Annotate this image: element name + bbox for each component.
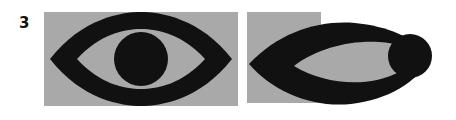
eye-pupil-shape-distorted (388, 34, 432, 78)
eye-symbol-distorted (247, 12, 437, 108)
undistorted-eye-panel (44, 12, 238, 106)
figure-number-label: 3 (19, 14, 29, 32)
eye-symbol (44, 12, 238, 106)
eye-pupil-shape (114, 32, 168, 86)
distorted-eye-panel (247, 12, 437, 108)
figure-root: 3 (0, 0, 456, 120)
